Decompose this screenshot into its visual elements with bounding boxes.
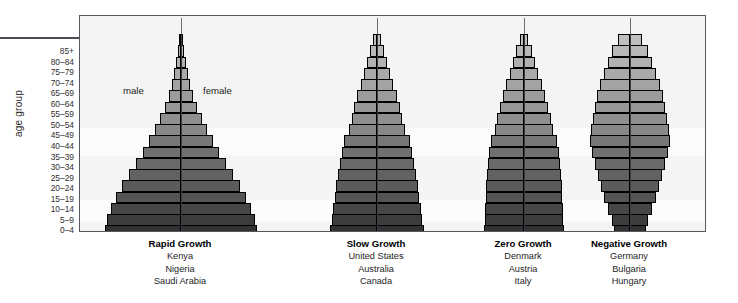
bar-male-4549 (591, 124, 630, 136)
caption-title: Slow Growth (296, 237, 456, 250)
bar-male-7579 (608, 57, 630, 69)
header-rule (0, 37, 79, 39)
y-axis-title: age group (13, 79, 24, 149)
y-axis-tick-59: 5–9 (28, 216, 74, 225)
y-axis-tick-2529: 25–29 (28, 174, 74, 183)
bar-female-5559 (630, 102, 665, 114)
pyramid-center-axis (630, 34, 631, 231)
y-axis-tick-8084: 80–84 (28, 58, 74, 67)
y-axis-tick-6569: 65–69 (28, 89, 74, 98)
y-axis-tick-04: 0–4 (28, 226, 74, 235)
y-axis-tick-4044: 40–44 (28, 142, 74, 151)
bar-female-4044 (630, 135, 670, 147)
bar-female-1519 (630, 192, 656, 204)
annotation-female: female (203, 85, 232, 96)
bar-female-6569 (630, 79, 660, 91)
caption-title: Negative Growth (549, 237, 709, 250)
y-axis-tick-2024: 20–24 (28, 184, 74, 193)
y-axis-tick-5559: 55–59 (28, 110, 74, 119)
bar-male-04 (614, 225, 630, 232)
bar-female-6064 (630, 90, 663, 102)
population-pyramid-figure: age group 85+80–8475–7970–7465–6960–6455… (0, 0, 738, 303)
y-axis-tick-labels: 85+80–8475–7970–7465–6960–6455–5950–5445… (28, 43, 74, 233)
bar-male-8084 (612, 45, 630, 57)
caption-slow-growth: Slow GrowthUnited StatesAustraliaCanada (296, 237, 456, 288)
caption-country: Kenya (100, 250, 260, 263)
annotation-male: male (123, 85, 144, 96)
bar-female-8084 (630, 45, 648, 57)
y-axis-tick-4549: 45–49 (28, 131, 74, 140)
plot-area: malefemale (79, 15, 706, 232)
y-axis-tick-3539: 35–39 (28, 153, 74, 162)
bar-male-5054 (593, 113, 630, 125)
y-axis-tick-7579: 75–79 (28, 68, 74, 77)
bar-female-85+ (630, 34, 642, 46)
bar-male-6569 (600, 79, 630, 91)
bar-female-5054 (630, 113, 667, 125)
y-axis-tick-85+: 85+ (28, 47, 74, 56)
bar-female-4549 (630, 124, 669, 136)
bar-male-1014 (608, 203, 630, 215)
caption-country: Bulgaria (549, 263, 709, 276)
panel-captions: Rapid GrowthKenyaNigeriaSaudi ArabiaSlow… (79, 237, 706, 299)
caption-country: Canada (296, 275, 456, 288)
caption-country: Germany (549, 250, 709, 263)
y-axis-tick-3034: 30–34 (28, 163, 74, 172)
y-axis-tick-1014: 10–14 (28, 205, 74, 214)
bar-female-7074 (630, 68, 656, 80)
bar-male-4044 (590, 135, 630, 147)
bar-male-59 (612, 214, 630, 226)
caption-rapid-growth: Rapid GrowthKenyaNigeriaSaudi Arabia (100, 237, 260, 288)
bar-male-7074 (604, 68, 630, 80)
bar-female-04 (630, 225, 646, 232)
caption-country: Australia (296, 263, 456, 276)
bar-female-3539 (630, 147, 668, 159)
y-axis-tick-6064: 60–64 (28, 100, 74, 109)
caption-country: United States (296, 250, 456, 263)
y-axis-tick-7074: 70–74 (28, 79, 74, 88)
bar-male-6064 (597, 90, 630, 102)
y-axis-tick-1519: 15–19 (28, 195, 74, 204)
bar-male-3539 (592, 147, 630, 159)
caption-title: Rapid Growth (100, 237, 260, 250)
pyramid-apex-spike (630, 18, 631, 34)
bar-female-59 (630, 214, 648, 226)
pyramid-negative-growth (80, 16, 705, 231)
bar-female-3034 (630, 158, 665, 170)
bar-male-5559 (595, 102, 630, 114)
caption-negative-growth: Negative GrowthGermanyBulgariaHungary (549, 237, 709, 288)
bar-male-2529 (598, 169, 630, 181)
bar-male-85+ (618, 34, 630, 46)
caption-country: Nigeria (100, 263, 260, 276)
bar-male-3034 (595, 158, 630, 170)
bar-female-7579 (630, 57, 652, 69)
caption-country: Saudi Arabia (100, 275, 260, 288)
bar-male-1519 (604, 192, 630, 204)
y-axis-tick-5054: 50–54 (28, 121, 74, 130)
bar-female-1014 (630, 203, 652, 215)
bar-male-2024 (601, 180, 630, 192)
caption-country: Hungary (549, 275, 709, 288)
bar-female-2024 (630, 180, 659, 192)
bar-female-2529 (630, 169, 662, 181)
